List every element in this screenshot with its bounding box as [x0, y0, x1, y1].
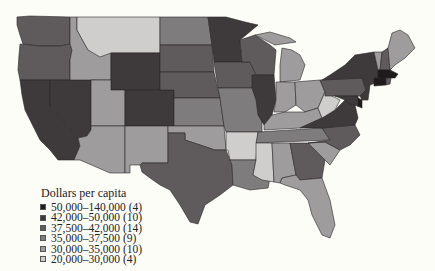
state-ma: [378, 70, 398, 78]
state-wy: [111, 53, 160, 90]
state-nd: [160, 17, 212, 45]
state-in: [274, 82, 296, 112]
legend-label: 20,000–30,000 (4): [51, 254, 136, 264]
legend-item: 20,000–30,000 (4): [40, 254, 142, 264]
legend-swatch-icon: [40, 235, 46, 241]
legend-item: 35,000–37,500 (9): [40, 233, 142, 243]
state-or: [18, 44, 72, 80]
state-wa: [17, 16, 70, 46]
legend-swatch-icon: [40, 256, 46, 262]
legend-swatch-icon: [40, 246, 46, 252]
state-me: [388, 30, 415, 70]
legend-swatch-icon: [40, 225, 46, 231]
state-ms: [253, 143, 274, 182]
state-ar: [226, 132, 258, 160]
state-pa: [320, 78, 366, 96]
state-ks: [174, 98, 224, 126]
state-fl: [280, 175, 335, 238]
state-ri: [386, 78, 391, 85]
state-mt: [77, 17, 160, 57]
legend-swatch-icon: [40, 204, 46, 210]
state-co: [125, 90, 174, 126]
legend-title: Dollars per capita: [41, 186, 142, 201]
legend-swatch-icon: [40, 215, 46, 221]
map-legend: Dollars per capita 50,000–140,000 (4) 42…: [40, 186, 142, 264]
state-ia: [214, 62, 256, 88]
state-ct: [374, 78, 386, 86]
state-sd: [160, 45, 214, 72]
